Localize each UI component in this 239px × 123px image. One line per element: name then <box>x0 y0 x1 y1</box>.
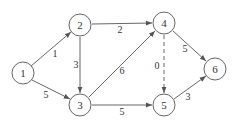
node-1: 1 <box>12 62 34 84</box>
edge-1-2: 1 <box>31 32 71 66</box>
edge-4-5: 0 <box>155 35 165 93</box>
node-label: 3 <box>77 99 83 111</box>
edge-3-4: 6 <box>89 31 155 97</box>
node-5: 5 <box>153 94 175 116</box>
node-label: 2 <box>77 19 83 31</box>
node-4: 4 <box>153 12 175 34</box>
node-3: 3 <box>69 94 91 116</box>
node-6: 6 <box>204 58 226 80</box>
edge-1-3: 5 <box>32 80 70 100</box>
directed-graph: 1 5 2 3 6 5 0 5 3 1 2 3 <box>0 0 239 123</box>
edge-4-6: 5 <box>173 31 206 61</box>
node-label: 5 <box>161 99 167 111</box>
node-label: 4 <box>161 17 167 29</box>
edge-weight: 3 <box>74 59 79 70</box>
node-2: 2 <box>69 14 91 36</box>
edge-weight: 3 <box>186 91 191 102</box>
edge-2-3: 3 <box>74 37 81 93</box>
edge-weight: 5 <box>183 43 188 54</box>
edge-5-6: 3 <box>174 76 206 102</box>
node-label: 6 <box>212 63 218 75</box>
edge-3-5: 5 <box>92 105 152 117</box>
edge-2-4: 2 <box>92 23 152 35</box>
edge-weight: 6 <box>120 65 125 76</box>
edge-weight: 1 <box>53 48 58 59</box>
node-label: 1 <box>20 67 26 79</box>
edge-weight: 2 <box>118 24 123 35</box>
edge-weight: 5 <box>120 106 125 117</box>
edge-weight: 0 <box>155 60 160 71</box>
edge-weight: 5 <box>44 89 49 100</box>
